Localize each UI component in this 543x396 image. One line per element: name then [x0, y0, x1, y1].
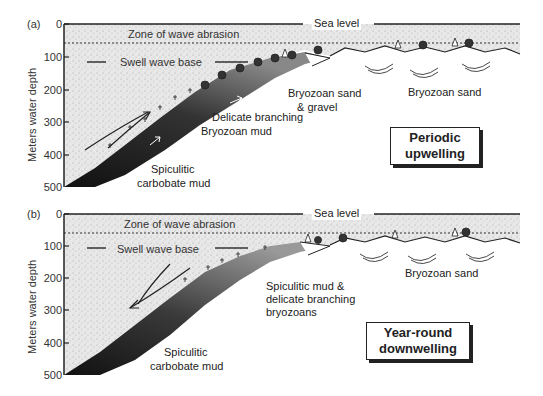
label-delicate-branching-2: Bryozoan mud [201, 125, 272, 138]
swell-wave-base-label: Swell wave base [120, 56, 202, 68]
sea-level-label: Sea level [312, 17, 361, 30]
tick-500: 500 [36, 369, 62, 381]
y-axis-label: Meters water depth [26, 260, 38, 354]
cross-section-a [0, 0, 543, 200]
swell-wave-base-label: Swell wave base [117, 243, 199, 255]
tick-400: 400 [36, 337, 62, 349]
tick-200: 200 [36, 84, 62, 96]
label-bryozoan-sand: Bryozoan sand [405, 267, 478, 280]
regime-line2: downwelling [379, 341, 457, 357]
label-spiculitic: Spiculitic [151, 163, 194, 176]
regime-line1: Periodic [409, 130, 460, 146]
label-bryozoan-sand: Bryozoan sand [408, 86, 481, 99]
label-bryozoan-sand-gravel: Bryozoan sand [288, 87, 361, 100]
sea-level-label: Sea level [312, 207, 361, 220]
label-spiculitic-mud-2: delicate branching [266, 293, 355, 306]
regime-line2: upwelling [405, 146, 465, 162]
zone-wave-abrasion-label: Zone of wave abrasion [128, 28, 239, 40]
panel-periodic-upwelling: (a) 0 100 200 300 400 500 Meters water d… [0, 0, 543, 200]
label-delicate-branching: Delicate branching [212, 111, 303, 124]
tick-200: 200 [36, 272, 62, 284]
label-spiculitic-mud-3: bryozoans [266, 306, 317, 319]
label-spiculitic-2: carbobate mud [137, 177, 210, 190]
tick-100: 100 [36, 240, 62, 252]
tick-100: 100 [36, 51, 62, 63]
label-spiculitic-2: carbobate mud [150, 360, 223, 373]
tick-0: 0 [36, 18, 62, 30]
tick-300: 300 [36, 304, 62, 316]
tick-500: 500 [36, 181, 62, 193]
y-axis-label: Meters water depth [26, 68, 38, 162]
regime-line1: Year-round [384, 325, 453, 341]
tick-0: 0 [36, 208, 62, 220]
zone-wave-abrasion-label: Zone of wave abrasion [124, 218, 235, 230]
regime-box-year-round-downwelling: Year-round downwelling [366, 322, 470, 360]
label-spiculitic: Spiculitic [164, 346, 207, 359]
regime-box-periodic-upwelling: Periodic upwelling [390, 127, 480, 165]
label-spiculitic-mud: Spiculitic mud & [266, 280, 344, 293]
tick-300: 300 [36, 116, 62, 128]
tick-400: 400 [36, 149, 62, 161]
panel-year-round-downwelling: (b) 0 100 200 300 400 500 Meters water d… [0, 200, 543, 396]
